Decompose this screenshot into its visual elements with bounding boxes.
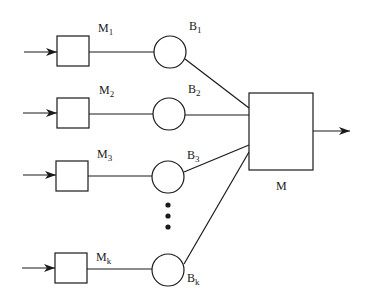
dot (165, 213, 170, 218)
station-2: M2 B2 (23, 82, 249, 130)
buffer-label: B2 (188, 82, 201, 98)
machine-label: M2 (99, 83, 114, 99)
machine-label: M3 (97, 147, 113, 163)
buffer-circle (154, 36, 186, 68)
station-1: M1 B1 (24, 19, 249, 108)
diagram-canvas: M1 B1 M2 B2 M3 B3 Mk Bk (0, 0, 368, 302)
buffer-label: Bk (187, 271, 200, 287)
station-3: M3 B3 (23, 145, 249, 193)
machine-label: M1 (98, 21, 113, 37)
dot (165, 202, 170, 207)
buffer-circle (152, 161, 184, 193)
buffer-label: B3 (187, 148, 200, 164)
machine-box (56, 161, 88, 191)
buffer-circle (152, 254, 184, 286)
machine-box (55, 253, 87, 283)
dot (165, 224, 170, 229)
assembly-machine-label: M (276, 179, 287, 193)
ellipsis-dots (165, 202, 170, 229)
machine-label: Mk (96, 250, 112, 266)
machine-box (57, 36, 89, 66)
assembly-machine-box (249, 93, 313, 170)
merge-line (184, 152, 249, 264)
buffer-label: B1 (189, 19, 202, 35)
assembly-machine: M (249, 93, 350, 193)
machine-box (57, 98, 89, 128)
buffer-circle (153, 98, 185, 130)
